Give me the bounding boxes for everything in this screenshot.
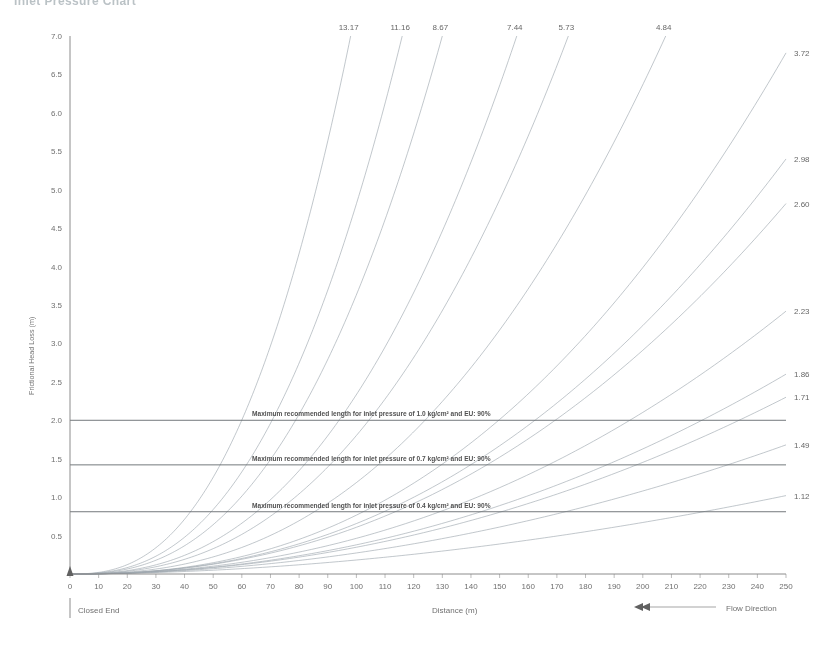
x-tick-labels: 0102030405060708090100110120130140150160… (68, 574, 793, 591)
x-tick-label: 0 (68, 582, 73, 591)
x-tick-label: 10 (94, 582, 103, 591)
x-tick-label: 100 (350, 582, 364, 591)
curve-label-1.12: 1.12 (794, 492, 810, 501)
curve-2.60 (70, 204, 786, 574)
y-tick-label: 6.5 (51, 70, 63, 79)
y-axis-title-text: Frictional Head Loss (m) (27, 317, 36, 395)
curve-label-8.67: 8.67 (433, 23, 449, 32)
y-tick-label: 4.5 (51, 224, 63, 233)
y-tick-label: 1.5 (51, 455, 63, 464)
y-tick-label: 2.0 (51, 416, 63, 425)
y-tick-label: 2.5 (51, 378, 63, 387)
reference-line-label-0: Maximum recommended length for inlet pre… (252, 410, 491, 418)
x-tick-label: 80 (295, 582, 304, 591)
x-tick-label: 50 (209, 582, 218, 591)
curve-series-group (70, 36, 786, 574)
y-axis-arrow-icon (67, 566, 74, 576)
x-tick-label: 170 (550, 582, 564, 591)
curve-7.44 (70, 36, 517, 574)
curve-3.72 (70, 53, 786, 574)
reference-line-label-1: Maximum recommended length for inlet pre… (252, 455, 491, 463)
reference-line-label-2: Maximum recommended length for inlet pre… (252, 502, 491, 510)
curve-label-11.16: 11.16 (391, 23, 411, 32)
x-tick-label: 250 (779, 582, 793, 591)
curve-13.17 (70, 36, 351, 574)
curve-labels-group: 13.1711.168.677.445.734.843.722.982.602.… (339, 23, 810, 501)
x-tick-label: 120 (407, 582, 421, 591)
y-tick-label: 3.0 (51, 339, 63, 348)
x-tick-label: 140 (464, 582, 478, 591)
x-tick-label: 220 (693, 582, 707, 591)
chart-page: Inlet Pressure Chart Frictional Head Los… (0, 0, 830, 649)
x-axis-caption: Distance (m) (432, 606, 478, 615)
x-tick-label: 20 (123, 582, 132, 591)
x-tick-label: 30 (151, 582, 160, 591)
curve-label-1.86: 1.86 (794, 370, 810, 379)
frictional-head-loss-chart: Frictional Head Loss (m) 0.51.01.52.02.5… (0, 0, 830, 649)
curve-2.23 (70, 311, 786, 574)
y-tick-label: 6.0 (51, 109, 63, 118)
x-tick-label: 210 (665, 582, 679, 591)
curve-1.49 (70, 445, 786, 574)
x-tick-label: 160 (522, 582, 536, 591)
y-tick-label: 5.5 (51, 147, 63, 156)
x-tick-label: 130 (436, 582, 450, 591)
curve-label-4.84: 4.84 (656, 23, 672, 32)
y-tick-label: 0.5 (51, 532, 63, 541)
x-tick-label: 70 (266, 582, 275, 591)
x-tick-label: 150 (493, 582, 507, 591)
curve-label-1.71: 1.71 (794, 393, 810, 402)
x-tick-label: 90 (323, 582, 332, 591)
curve-label-1.49: 1.49 (794, 441, 810, 450)
curve-5.73 (70, 36, 568, 574)
x-tick-label: 110 (379, 582, 392, 591)
x-tick-label: 40 (180, 582, 189, 591)
y-tick-label: 3.5 (51, 301, 63, 310)
curve-label-7.44: 7.44 (507, 23, 523, 32)
curve-label-2.60: 2.60 (794, 200, 810, 209)
x-tick-label: 180 (579, 582, 593, 591)
y-tick-label: 1.0 (51, 493, 63, 502)
flow-direction-label: Flow Direction (726, 604, 777, 613)
y-axis-title: Frictional Head Loss (m) (27, 317, 36, 395)
curve-1.71 (70, 397, 786, 574)
chart-footer: Closed End Distance (m) Flow Direction (70, 598, 777, 618)
curve-label-2.98: 2.98 (794, 155, 810, 164)
curve-4.84 (70, 36, 666, 574)
x-tick-label: 240 (751, 582, 765, 591)
y-tick-label: 5.0 (51, 186, 63, 195)
y-tick-labels: 0.51.01.52.02.53.03.54.04.55.05.56.06.57… (51, 32, 63, 541)
closed-end-label: Closed End (78, 606, 119, 615)
curve-label-13.17: 13.17 (339, 23, 360, 32)
curve-label-2.23: 2.23 (794, 307, 810, 316)
curve-label-3.72: 3.72 (794, 49, 810, 58)
x-tick-label: 230 (722, 582, 736, 591)
curve-8.67 (70, 36, 442, 574)
x-tick-label: 60 (237, 582, 246, 591)
flow-direction-arrow-icon (634, 603, 716, 611)
y-tick-label: 7.0 (51, 32, 63, 41)
x-tick-label: 200 (636, 582, 650, 591)
x-tick-label: 190 (607, 582, 621, 591)
curve-label-5.73: 5.73 (559, 23, 575, 32)
axes-group (67, 36, 787, 576)
y-tick-label: 4.0 (51, 263, 63, 272)
